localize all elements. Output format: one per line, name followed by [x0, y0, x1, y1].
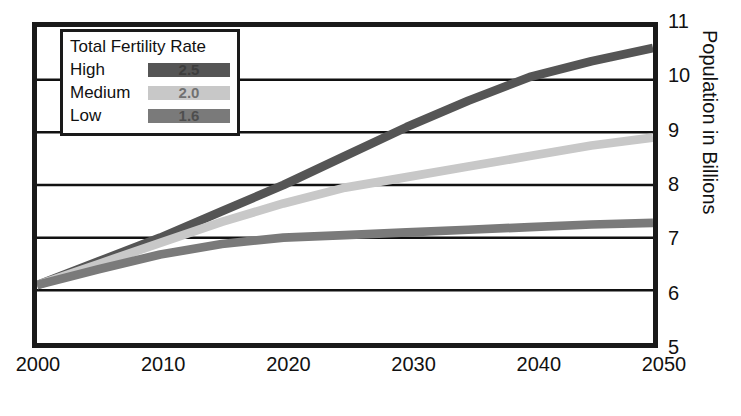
legend-row-medium: Medium2.0	[70, 81, 230, 104]
y-tick-label-7: 7	[668, 228, 679, 248]
x-tick-label-2030: 2030	[391, 352, 436, 376]
legend: Total Fertility Rate High2.5Medium2.0Low…	[60, 29, 240, 136]
legend-swatch: 2.5	[148, 63, 230, 77]
legend-row-low: Low1.6	[70, 104, 230, 127]
y-tick-label-8: 8	[668, 174, 679, 194]
y-tick-label-11: 11	[668, 11, 689, 31]
legend-value: 1.6	[179, 108, 200, 123]
y-tick-label-9: 9	[668, 120, 679, 140]
x-tick-label-2050: 2050	[642, 352, 687, 376]
x-tick-label-2010: 2010	[141, 352, 186, 376]
population-projection-chart: 111098765 Population in Billions 2000201…	[0, 0, 741, 416]
legend-title: Total Fertility Rate	[70, 36, 230, 57]
y-axis-title: Population in Billions	[421, 30, 721, 56]
legend-swatch: 1.6	[148, 109, 230, 123]
x-tick-label-2000: 2000	[16, 352, 61, 376]
legend-rows: High2.5Medium2.0Low1.6	[70, 58, 230, 127]
x-tick-label-2020: 2020	[266, 352, 311, 376]
x-tick-label-2040: 2040	[517, 352, 562, 376]
legend-swatch: 2.0	[148, 86, 230, 100]
legend-label: High	[70, 59, 148, 80]
legend-row-high: High2.5	[70, 58, 230, 81]
legend-value: 2.5	[179, 62, 200, 77]
legend-label: Low	[70, 105, 148, 126]
y-tick-label-10: 10	[668, 65, 690, 85]
legend-value: 2.0	[179, 85, 200, 100]
y-tick-label-6: 6	[668, 283, 679, 303]
legend-label: Medium	[70, 82, 148, 103]
